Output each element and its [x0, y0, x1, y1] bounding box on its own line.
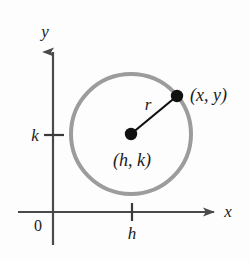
circle-diagram-svg: y x 0 k h (x, y) (h, k) r: [0, 0, 250, 261]
y-axis-label: y: [39, 22, 49, 41]
origin-label: 0: [34, 217, 42, 234]
figure-container: y x 0 k h (x, y) (h, k) r: [0, 0, 250, 261]
circle-point-dot: [171, 90, 183, 102]
center-point-label: (h, k): [113, 150, 151, 171]
center-point-dot: [125, 128, 137, 140]
y-tick-label-k: k: [31, 126, 39, 145]
x-tick-label-h: h: [128, 224, 137, 243]
radius-label: r: [145, 95, 152, 114]
point-on-circle-label: (x, y): [190, 85, 227, 106]
x-axis-label: x: [223, 202, 232, 221]
